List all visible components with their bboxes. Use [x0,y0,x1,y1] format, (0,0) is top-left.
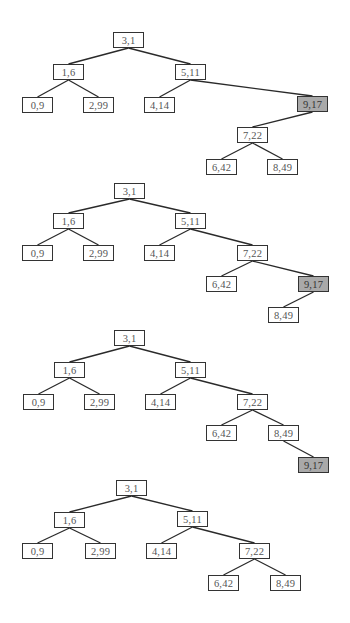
tree-edge [70,346,130,362]
tree-node: 2,99 [83,97,114,113]
tree-node: 0,9 [22,543,53,559]
tree-edge [130,346,191,362]
tree-edge [69,48,129,64]
tree-node: 6,42 [208,575,239,591]
tree-node: 1,6 [54,512,85,528]
tree-node: 1,6 [53,64,84,80]
tree-node: 0,9 [22,245,53,261]
tree-4-edges [38,496,286,575]
tree-edge [38,80,69,97]
tree-edge [160,80,191,97]
tree-node: 0,9 [23,394,54,410]
tree-edge [193,527,255,543]
highlighted-tree-node: 9,17 [297,96,328,112]
tree-edge [161,378,191,394]
tree-edge [38,229,69,245]
tree-edge [132,496,193,511]
tree-node: 5,11 [175,362,206,378]
tree-edge [253,261,314,276]
tree-node: 7,22 [237,245,268,261]
tree-edge [224,559,255,575]
tree-edge [222,143,253,159]
tree-edge [70,378,100,394]
tree-node: 8,49 [268,307,299,323]
tree-edge [160,229,191,245]
tree-node: 7,22 [237,394,268,410]
tree-node: 6,42 [206,159,237,175]
tree-edge [191,378,253,394]
tree-node: 4,14 [145,394,176,410]
tree-node: 5,11 [175,213,206,229]
highlighted-tree-node: 9,17 [298,457,329,473]
tree-edge [39,378,70,394]
tree-node: 8,49 [267,159,298,175]
tree-edge [284,292,314,307]
tree-edge [70,496,132,512]
tree-edge [191,229,253,245]
tree-edge [129,48,191,64]
tree-edge [222,410,253,425]
tree-node: 3,1 [113,32,144,48]
tree-node: 0,9 [22,97,53,113]
tree-edge [253,143,283,159]
tree-diagram-canvas: 3,11,65,110,92,994,149,177,226,428,493,1… [0,0,350,623]
tree-edge [284,441,314,457]
tree-node: 7,22 [239,543,270,559]
tree-edge [70,528,101,543]
tree-edge [38,528,70,543]
tree-node: 8,49 [268,425,299,441]
tree-node: 6,42 [206,425,237,441]
highlighted-tree-node: 9,17 [298,276,329,292]
tree-node: 5,11 [175,64,206,80]
tree-node: 1,6 [53,213,84,229]
tree-node: 6,42 [206,276,237,292]
tree-node: 8,49 [270,575,301,591]
tree-edge [255,559,286,575]
tree-edge [162,527,193,543]
tree-node: 7,22 [237,127,268,143]
tree-node: 4,14 [144,245,175,261]
tree-node: 1,6 [54,362,85,378]
tree-node: 3,1 [114,183,145,199]
tree-node: 5,11 [177,511,208,527]
tree-edge [69,229,99,245]
tree-node: 3,1 [116,480,147,496]
tree-edge [130,199,191,213]
tree-edge [253,112,313,127]
tree-edge [191,80,313,96]
tree-edge [253,410,284,425]
tree-node: 3,1 [114,330,145,346]
tree-node: 2,99 [83,245,114,261]
tree-node: 4,14 [144,97,175,113]
tree-edge [69,80,99,97]
tree-node: 2,99 [85,543,116,559]
tree-edge [222,261,253,276]
tree-node: 2,99 [84,394,115,410]
tree-edge [69,199,130,213]
tree-node: 4,14 [146,543,177,559]
